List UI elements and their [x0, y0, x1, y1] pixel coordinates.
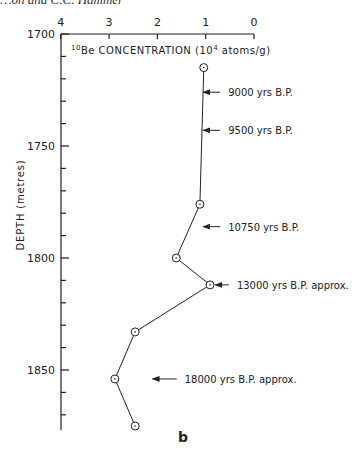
annotation-label: 18000 yrs B.P. approx.: [185, 374, 297, 385]
data-point-center: [114, 378, 116, 380]
annotation-label: 10750 yrs B.P.: [228, 222, 299, 233]
data-line: [115, 68, 210, 426]
x-tick-label: 2: [154, 16, 161, 29]
data-point-center: [134, 425, 136, 427]
y-tick-label: 1750: [27, 140, 55, 153]
data-point-center: [175, 257, 177, 259]
annotation-label: 9000 yrs B.P.: [228, 87, 293, 98]
x-axis-title: 10Be CONCENTRATION (104 atoms/g): [71, 44, 271, 56]
be10-depth-chart: 43210170017501800185010Be CONCENTRATION …: [0, 0, 354, 457]
data-point-center: [209, 284, 211, 286]
x-tick-label: 4: [57, 16, 64, 29]
panel-label: b: [178, 429, 188, 445]
annotation-label: 13000 yrs B.P. approx.: [237, 280, 349, 291]
annotation-label: 9500 yrs B.P.: [228, 125, 293, 136]
y-axis-title: DEPTH (metres): [15, 160, 26, 251]
y-tick-label: 1700: [27, 28, 55, 41]
x-tick-label: 0: [251, 16, 258, 29]
x-tick-label: 1: [202, 16, 209, 29]
data-point-center: [203, 67, 205, 69]
data-point-center: [134, 331, 136, 333]
y-tick-label: 1800: [27, 252, 55, 265]
x-tick-label: 3: [106, 16, 113, 29]
data-point-center: [199, 203, 201, 205]
y-tick-label: 1850: [27, 364, 55, 377]
